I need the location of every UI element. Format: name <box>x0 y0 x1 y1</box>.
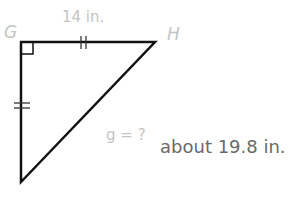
vertex-label-g: G <box>4 24 17 41</box>
side-length-label: 14 in. <box>62 10 104 25</box>
hypotenuse-label: g = ? <box>106 128 146 143</box>
right-angle-marker <box>21 42 33 54</box>
vertex-label-h: H <box>167 26 180 43</box>
answer-text: about 19.8 in. <box>160 138 286 156</box>
triangle-outline <box>21 42 155 182</box>
triangle-figure <box>0 0 307 198</box>
